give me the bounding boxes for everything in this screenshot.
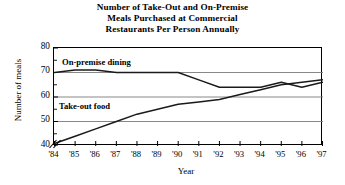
series-label-take-out-food: Take-out food xyxy=(58,101,111,111)
x-tick-label: '97 xyxy=(310,150,334,159)
x-axis-tick-labels: '84'85'86'87'88'89'90'91'92'93'94'95'96'… xyxy=(0,0,345,185)
x-axis-title: Year xyxy=(50,166,322,176)
series-label-on-premise-dining: On-premise dining xyxy=(61,57,132,67)
chart-container: Number of Take-Out and On-Premise Meals … xyxy=(0,0,345,185)
